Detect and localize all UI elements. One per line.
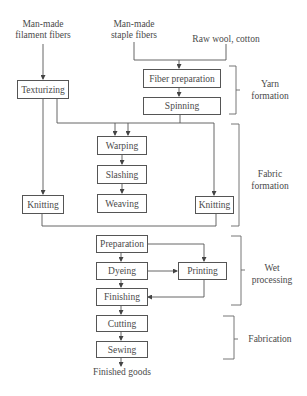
process-dyeing: Dyeing [96,262,148,280]
process-preparation: Preparation [96,235,148,253]
process-fiber-preparation: Fiber preparation [143,69,221,88]
process-cutting: Cutting [96,315,148,332]
wet-bracket [231,236,241,305]
source-filament-fibers: Man-made filament fibers [10,19,76,41]
process-finishing: Finishing [96,288,148,306]
process-warping: Warping [97,136,147,155]
stage-wet-processing: Wet processing [244,262,300,286]
process-knitting-left: Knitting [22,195,64,214]
process-slashing: Slashing [97,165,147,184]
source-raw-wool-cotton: Raw wool, cotton [188,34,264,45]
stage-fabric-formation: Fabric formation [244,168,296,192]
textile-process-flowchart: Man-made filament fibers Man-made staple… [0,0,307,396]
yarn-bracket [229,66,236,114]
process-knitting-right: Knitting [195,196,234,214]
process-sewing: Sewing [96,341,148,358]
stage-yarn-formation: Yarn formation [244,78,296,102]
process-printing: Printing [178,262,227,280]
output-finished-goods: Finished goods [84,367,160,378]
fabrication-bracket [223,316,234,359]
source-staple-fibers: Man-made staple fibers [103,19,165,41]
process-weaving: Weaving [97,194,147,213]
process-spinning: Spinning [143,97,221,115]
stage-fabrication: Fabrication [242,333,298,345]
process-texturizing: Texturizing [17,80,69,99]
